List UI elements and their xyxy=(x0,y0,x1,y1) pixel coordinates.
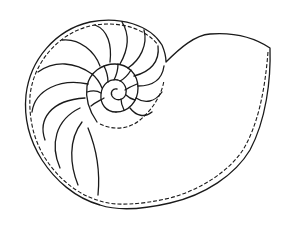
inner-septa xyxy=(87,64,137,110)
inner-whorl xyxy=(87,64,138,122)
nautilus-illustration xyxy=(0,0,291,230)
nautilus-shell-drawing xyxy=(0,0,291,230)
